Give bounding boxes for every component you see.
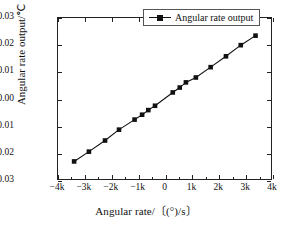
y-axis-title: Angular rate output/℃ (15, 0, 28, 140)
y-tick-right (267, 127, 271, 128)
square-marker-icon (149, 13, 171, 22)
data-point (103, 138, 108, 143)
data-point (146, 108, 151, 113)
x-tick (112, 175, 113, 179)
x-tick (192, 175, 193, 179)
y-tick (58, 154, 62, 155)
data-point (177, 85, 182, 90)
data-point (238, 43, 243, 48)
data-point (170, 90, 175, 95)
data-point (72, 159, 77, 164)
data-point (184, 80, 189, 85)
y-tick-right (267, 100, 271, 101)
y-tick-right (267, 18, 271, 19)
y-tick-label: −0.03 (0, 175, 14, 185)
x-tick (273, 175, 274, 179)
y-tick-label: −0.01 (0, 121, 14, 131)
y-tick (58, 45, 62, 46)
x-tick-top (85, 18, 86, 22)
x-tick (246, 175, 247, 179)
x-tick-label: 4k (252, 183, 292, 193)
x-axis-title: Angular rate/〔(°)/s〕 (0, 202, 292, 218)
y-tick-label: 0.03 (0, 12, 14, 22)
y-tick-label: −0.02 (0, 148, 14, 158)
y-tick (58, 100, 62, 101)
chart-legend: Angular rate output (143, 9, 260, 26)
x-tick-minor (260, 177, 261, 180)
series-line (74, 36, 255, 162)
y-tick-label: 0.01 (0, 66, 14, 76)
x-tick-top (58, 18, 59, 22)
y-tick (58, 127, 62, 128)
data-point (153, 103, 158, 108)
x-tick-minor (152, 177, 153, 180)
series-angular-rate-output (58, 18, 273, 181)
x-tick (85, 175, 86, 179)
x-tick-minor (71, 177, 72, 180)
x-tick (166, 175, 167, 179)
x-tick-top (112, 18, 113, 22)
plot-area (57, 17, 272, 180)
legend-entry-label: Angular rate output (175, 12, 253, 23)
data-point (208, 65, 213, 70)
y-tick-right (267, 45, 271, 46)
y-tick-label: 0.02 (0, 39, 14, 49)
y-tick-right (267, 154, 271, 155)
x-tick-minor (98, 177, 99, 180)
x-tick (219, 175, 220, 179)
x-tick (58, 175, 59, 179)
data-point (140, 112, 145, 117)
data-point (224, 54, 229, 59)
x-tick-minor (179, 177, 180, 180)
chart-figure: Angular rate output Angular rate output/… (0, 0, 292, 229)
data-point (194, 75, 199, 80)
x-tick-minor (125, 177, 126, 180)
x-tick-top (273, 18, 274, 22)
legend-marker (157, 15, 163, 21)
x-tick (139, 175, 140, 179)
y-tick-right (267, 72, 271, 73)
data-point (87, 149, 92, 154)
data-point (253, 33, 258, 38)
data-point (117, 127, 122, 132)
x-tick-top (139, 18, 140, 22)
data-point (132, 117, 137, 122)
y-tick-label: 0.00 (0, 94, 14, 104)
y-tick (58, 72, 62, 73)
x-tick-minor (233, 177, 234, 180)
x-tick-minor (206, 177, 207, 180)
